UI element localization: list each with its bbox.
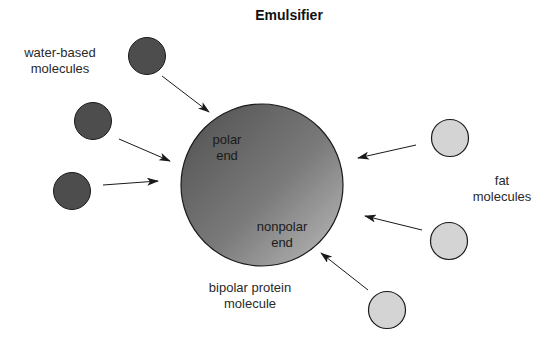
water-based-molecules-label: water-based molecules: [24, 45, 96, 77]
water-molecule-3: [54, 173, 91, 210]
arrow-fat-2: [365, 216, 422, 230]
label-line: fat: [473, 173, 532, 189]
label-line: end: [257, 235, 308, 251]
arrow-water-1: [162, 76, 209, 112]
water-molecule-2: [75, 103, 112, 140]
arrow-water-3: [103, 181, 158, 185]
fat-molecule-2: [431, 223, 468, 260]
label-line: molecules: [24, 61, 96, 77]
fat-molecule-1: [432, 120, 469, 157]
label-line: nonpolar: [257, 219, 308, 235]
arrow-fat-1: [358, 145, 416, 158]
fat-molecules: [369, 120, 469, 329]
fat-molecules-label: fat molecules: [473, 173, 532, 205]
label-line: end: [213, 148, 242, 164]
arrow-fat-3: [321, 253, 368, 290]
water-molecule-1: [129, 38, 166, 75]
fat-molecule-3: [369, 292, 406, 329]
diagram-title: Emulsifier: [255, 7, 323, 23]
bipolar-protein-molecule-label: bipolar protein molecule: [209, 280, 291, 312]
label-line: bipolar protein: [209, 280, 291, 296]
label-line: polar: [213, 132, 242, 148]
label-line: molecules: [473, 189, 532, 205]
label-line: water-based: [24, 45, 96, 61]
nonpolar-end-label: nonpolar end: [257, 219, 308, 251]
label-line: molecule: [209, 296, 291, 312]
arrow-water-2: [119, 139, 170, 161]
polar-end-label: polar end: [213, 132, 242, 164]
